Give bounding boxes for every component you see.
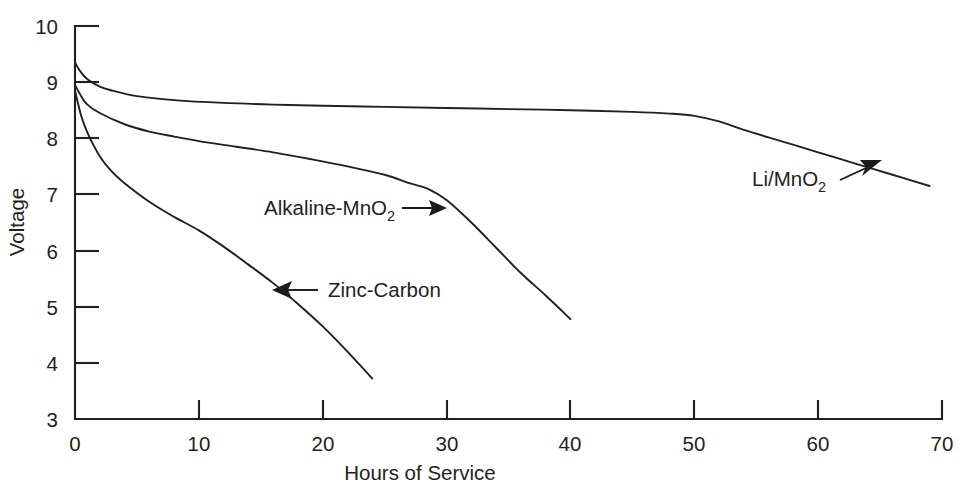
alkaline-mno2-label: Alkaline-MnO2 [264,196,395,224]
chart-figure: 10 9 8 7 6 5 4 3 0 10 20 30 40 50 60 70 … [0,0,975,487]
li-mno2-leader [840,168,866,180]
y-tick-label-8: 8 [47,127,58,150]
y-tick-label-9: 9 [47,71,58,94]
series-group [75,62,930,378]
y-tick-label-4: 4 [47,352,58,375]
li-mno2-label: Li/MnO2 [752,167,826,195]
x-tick-label-40: 40 [559,432,582,455]
x-axis-ticks [199,400,942,419]
zinc-carbon-annotation: Zinc-Carbon [272,278,441,301]
zinc-carbon-label: Zinc-Carbon [328,278,441,301]
x-tick-label-60: 60 [807,432,830,455]
x-tick-label-10: 10 [188,432,211,455]
x-tick-label-30: 30 [436,432,459,455]
li-mno2-label-text: Li/MnO [752,167,818,190]
y-tick-label-3: 3 [47,408,58,431]
series-zinc-carbon [75,91,372,379]
x-tick-label-70: 70 [931,432,954,455]
alkaline-mno2-annotation: Alkaline-MnO2 [264,196,447,224]
li-mno2-label-sub: 2 [818,179,826,195]
x-axis-title: Hours of Service [344,461,496,484]
y-tick-label-5: 5 [47,296,58,319]
y-tick-label-6: 6 [47,240,58,263]
y-tick-label-10: 10 [35,15,58,38]
alkaline-mno2-label-text: Alkaline-MnO [264,196,387,219]
battery-discharge-chart: 10 9 8 7 6 5 4 3 0 10 20 30 40 50 60 70 … [0,0,975,487]
x-tick-label-20: 20 [312,432,335,455]
x-tick-label-50: 50 [683,432,706,455]
li-mno2-arrow-icon [860,160,882,176]
alkaline-mno2-label-sub: 2 [387,208,395,224]
y-axis-ticks [75,26,99,363]
x-tick-label-0: 0 [69,432,80,455]
y-axis-title: Voltage [5,188,28,256]
y-tick-label-7: 7 [47,183,58,206]
